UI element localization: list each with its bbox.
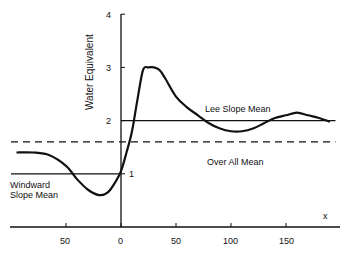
windward-label-line1: Windward [10, 180, 50, 190]
chart-canvas [0, 0, 356, 254]
y-tick-3: 3 [106, 63, 111, 73]
windward-label-line2: Slope Mean [10, 190, 58, 200]
x-tick-50: 50 [171, 236, 181, 246]
y-axis-label: Water Equivalent [84, 34, 95, 110]
x-tick-0: 0 [118, 236, 123, 246]
y-tick-4: 4 [106, 10, 111, 20]
x-tick-100: 100 [223, 236, 238, 246]
y-tick-1: 1 [129, 169, 134, 179]
lee-slope-mean-label: Lee Slope Mean [205, 104, 271, 114]
x-tick-minus50: 50 [60, 236, 70, 246]
x-tick-150: 150 [279, 236, 294, 246]
water-equivalent-line [17, 67, 331, 195]
over-all-mean-label: Over All Mean [207, 157, 264, 167]
y-tick-2: 2 [106, 116, 111, 126]
x-axis-label: x [323, 211, 328, 221]
